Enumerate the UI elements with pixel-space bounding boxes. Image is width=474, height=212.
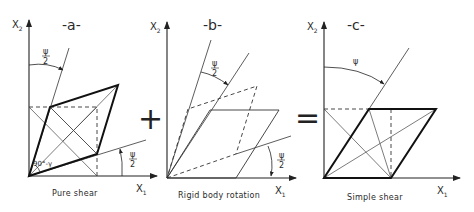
- angle-label-num: ψ: [212, 59, 217, 68]
- panel-c: X2 -c- ψ X1 Simple shear: [307, 17, 460, 202]
- x1-label: X1: [136, 183, 147, 196]
- angle-arc: [324, 67, 384, 84]
- panel-caption: Rigid body rotation: [178, 191, 260, 200]
- angle-label-den: 2: [212, 69, 217, 78]
- x2-label: X2: [12, 19, 23, 32]
- panel-a: X2 -a- ψ 2 ψ 2 90°-γ X1 Pure shear: [12, 17, 157, 198]
- square-diagonal: [324, 109, 391, 178]
- angle-label-den: 2: [130, 160, 135, 169]
- angle-label-num: ψ: [130, 150, 135, 159]
- rotated-line: [167, 53, 249, 178]
- corner-angle-label: 90°-γ: [33, 160, 52, 168]
- angle-label-num: ψ: [43, 47, 48, 56]
- pure-shear-rhombus: [167, 86, 257, 178]
- equals-operator: =: [295, 100, 320, 135]
- panel-b: X2 -b- ψ 2 ψ 2 X1 Rigid body rotation: [150, 17, 296, 200]
- panel-caption: Simple shear: [347, 193, 403, 202]
- sheared-parallelogram: [167, 110, 279, 178]
- angle-label-den: 2: [279, 161, 284, 170]
- x1-label: X1: [437, 185, 448, 198]
- angle-arc-bottom: [120, 149, 122, 176]
- panel-title: -c-: [347, 17, 365, 33]
- angle-label-num: ψ: [279, 151, 284, 160]
- angle-label-den: 2: [43, 57, 48, 66]
- parallelogram-diagonal: [369, 109, 391, 178]
- rotated-x2-line: [167, 40, 211, 178]
- angle-arc-bottom: [268, 146, 272, 176]
- panel-title: -a-: [62, 17, 81, 33]
- deformation-diagram: X2 -a- ψ 2 ψ 2 90°-γ X1 Pure shear + X2 …: [0, 0, 474, 212]
- x1-label: X1: [275, 185, 286, 198]
- x2-label: X2: [150, 21, 161, 34]
- angle-label: ψ: [353, 57, 358, 66]
- plus-operator: +: [138, 101, 163, 136]
- panel-title: -b-: [203, 17, 222, 33]
- x2-label: X2: [307, 21, 318, 34]
- panel-caption: Pure shear: [52, 189, 98, 198]
